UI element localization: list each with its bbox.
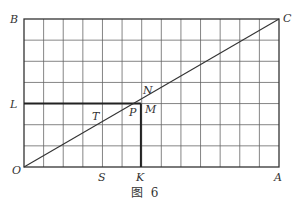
label-t: T	[92, 110, 101, 123]
label-m: M	[144, 103, 157, 116]
label-n: N	[142, 84, 153, 97]
label-l: L	[9, 98, 17, 111]
label-a: A	[273, 171, 282, 184]
label-c: C	[283, 12, 292, 25]
label-o: O	[12, 164, 21, 177]
figure-caption: 图 6	[131, 186, 158, 200]
label-k: K	[135, 171, 145, 184]
label-p: P	[128, 106, 137, 119]
label-s: S	[98, 171, 106, 184]
figure-6-diagram: B C L O S K A T P M N 图 6	[0, 0, 300, 209]
label-b: B	[9, 13, 18, 26]
